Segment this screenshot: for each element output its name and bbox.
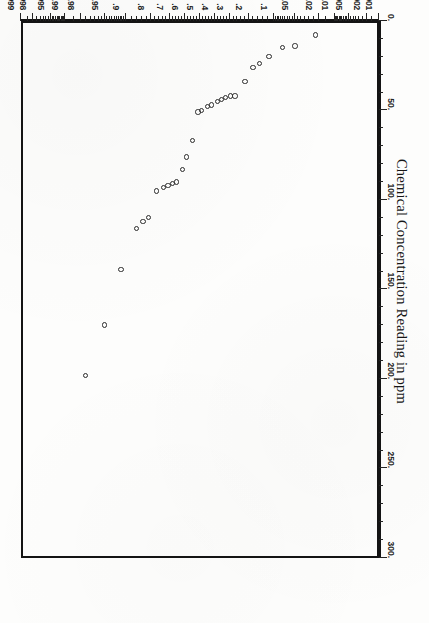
concentration-axis-minor-tick <box>379 503 384 504</box>
probability-axis-minor-tick <box>58 17 59 22</box>
probability-axis-minor-tick <box>277 17 278 22</box>
data-point <box>134 226 139 231</box>
probability-axis-minor-tick <box>300 17 301 22</box>
data-point <box>118 267 123 272</box>
probability-axis-tick-label-text: .995 <box>36 0 46 10</box>
probability-axis-minor-tick <box>158 17 159 22</box>
concentration-axis-tick-label: 300. <box>386 541 396 558</box>
concentration-axis-minor-tick <box>379 432 384 433</box>
probability-axis-minor-tick <box>106 17 107 22</box>
probability-axis-minor-tick <box>275 17 276 22</box>
concentration-axis-minor-tick <box>379 253 384 254</box>
probability-axis-minor-tick <box>313 17 314 22</box>
concentration-axis-tick-label: 0. <box>386 14 396 21</box>
probability-axis-tick-label: .98 <box>71 4 81 15</box>
probability-axis-minor-tick <box>131 17 132 22</box>
probability-axis-minor-tick <box>336 17 337 22</box>
probability-axis-minor-tick <box>223 17 224 22</box>
probability-axis-minor-tick <box>178 17 179 22</box>
probability-axis-minor-tick <box>226 17 227 22</box>
probability-axis-minor-tick <box>162 17 163 22</box>
probability-axis-minor-tick <box>289 17 290 22</box>
probability-axis-minor-tick <box>36 17 37 22</box>
probability-axis-minor-tick <box>90 17 91 22</box>
data-point <box>292 43 297 48</box>
probability-axis-minor-tick <box>297 17 298 22</box>
probability-axis-minor-tick <box>325 17 326 22</box>
probability-axis-tick-label: .999 <box>11 2 21 18</box>
probability-plot-figure: .001.002.005.01.02.05.1.2.3.4.5.6.7.8.9.… <box>0 0 429 623</box>
probability-axis-tick-label-text: .99 <box>50 0 60 10</box>
probability-axis-minor-tick <box>292 17 293 22</box>
probability-axis-minor-tick <box>101 17 102 22</box>
probability-axis-tick-label: .9 <box>116 7 126 14</box>
data-point <box>140 219 145 224</box>
probability-axis-minor-tick <box>208 17 209 22</box>
data-point <box>146 215 151 220</box>
data-point <box>195 109 200 114</box>
concentration-axis-minor-tick <box>379 414 384 415</box>
probability-axis-minor-tick <box>175 17 176 22</box>
probability-axis-minor-tick <box>118 17 119 22</box>
probability-axis-tick-label: .5 <box>190 7 200 14</box>
probability-axis-minor-tick <box>59 17 60 22</box>
probability-axis-tick-label: .8 <box>141 7 151 14</box>
probability-axis: .001.002.005.01.02.05.1.2.3.4.5.6.7.8.9.… <box>21 0 379 21</box>
probability-axis-tick-label: .002 <box>357 2 367 18</box>
probability-axis-minor-tick <box>116 17 117 22</box>
probability-axis-minor-tick <box>304 17 305 22</box>
probability-axis-tick-label-text: .3 <box>215 3 225 10</box>
concentration-axis-minor-tick <box>379 360 384 361</box>
probability-axis-minor-tick <box>308 17 309 22</box>
probability-axis-minor-tick <box>220 17 221 22</box>
concentration-axis-minor-tick <box>379 342 384 343</box>
data-point <box>165 183 170 188</box>
data-point <box>313 32 318 37</box>
concentration-axis-minor-tick <box>379 92 384 93</box>
probability-axis-tick-label: .02 <box>309 4 319 15</box>
probability-axis-minor-tick <box>146 17 147 22</box>
probability-axis-tick <box>125 13 126 21</box>
probability-axis-minor-tick <box>287 17 288 22</box>
probability-axis-tick-label: .001 <box>369 2 379 18</box>
probability-axis-minor-tick <box>181 17 182 22</box>
probability-axis-tick-label: .995 <box>41 2 51 18</box>
probability-axis-tick-label: .99 <box>55 4 65 15</box>
probability-axis-minor-tick <box>57 17 58 22</box>
concentration-axis-minor-tick <box>379 324 384 325</box>
plot-frame <box>21 21 379 558</box>
plot-canvas: .001.002.005.01.02.05.1.2.3.4.5.6.7.8.9.… <box>0 0 429 623</box>
probability-axis-minor-tick <box>282 17 283 22</box>
probability-axis-minor-tick <box>202 17 203 22</box>
data-point <box>83 373 88 378</box>
probability-axis-minor-tick <box>257 17 258 22</box>
probability-axis-minor-tick <box>211 17 212 22</box>
probability-axis-tick-label-text: .95 <box>90 0 100 10</box>
concentration-axis-minor-tick <box>379 521 384 522</box>
concentration-axis-minor-tick <box>379 163 384 164</box>
probability-axis-minor-tick <box>154 17 155 22</box>
data-point <box>102 322 107 327</box>
concentration-axis-minor-tick <box>379 450 384 451</box>
probability-axis-tick-label-text: .002 <box>352 0 362 10</box>
concentration-axis-minor-tick <box>379 396 384 397</box>
probability-axis-minor-tick <box>73 17 74 22</box>
probability-axis-minor-tick <box>109 17 110 22</box>
probability-axis-minor-tick <box>136 17 137 22</box>
probability-axis-minor-tick <box>335 17 336 22</box>
probability-axis-minor-tick <box>350 17 351 22</box>
probability-axis-tick-label: .95 <box>95 4 105 15</box>
concentration-axis-minor-tick <box>379 56 384 57</box>
probability-axis-tick-label: .7 <box>160 7 170 14</box>
concentration-axis-minor-tick <box>379 74 384 75</box>
data-point <box>232 93 237 98</box>
probability-axis-tick-label-text: .01 <box>320 0 330 10</box>
probability-axis-tick-label: .3 <box>220 7 230 14</box>
probability-axis-tick-label: .6 <box>175 7 185 14</box>
probability-axis-tick-label: .4 <box>205 7 215 14</box>
probability-axis-tick <box>150 13 151 21</box>
concentration-axis-minor-tick <box>379 306 384 307</box>
data-point <box>257 61 262 66</box>
data-point <box>266 54 271 59</box>
probability-axis-tick-label-text: .98 <box>66 0 76 10</box>
